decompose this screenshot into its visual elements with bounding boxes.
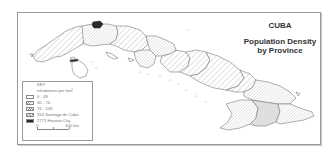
region-granma	[220, 100, 258, 130]
region-guantanamo	[276, 104, 314, 124]
subtitle-line-1: Population Density	[244, 37, 316, 46]
scale-tick	[69, 127, 70, 129]
map-subtitle: Population Density by Province	[242, 37, 318, 55]
legend-swatch-solid	[26, 119, 34, 123]
region-pinar-del-rio	[33, 26, 84, 62]
islet	[128, 58, 134, 62]
legend-swatch-blank	[26, 95, 34, 99]
legend-swatch-stipple	[26, 113, 34, 117]
map-title: CUBA	[242, 21, 318, 31]
legend-swatch-dense-hatch	[26, 107, 34, 111]
legend-item: 2771 Havana City	[23, 118, 92, 124]
islet	[296, 92, 300, 96]
islet	[106, 52, 118, 59]
map-title-block: CUBA Population Density by Province	[242, 21, 318, 55]
scale-bar: 0 100 km	[37, 125, 92, 133]
islet	[30, 54, 33, 57]
legend-swatch-wide-hatch	[26, 101, 34, 105]
subtitle-line-2: by Province	[257, 46, 302, 55]
scale-line	[37, 129, 69, 130]
scale-tick	[53, 127, 54, 129]
region-isle-of-youth	[72, 60, 88, 78]
legend: KEY inhabitants per km² 0 - 48 50 - 74 7…	[22, 81, 93, 141]
scale-tick	[37, 127, 38, 129]
